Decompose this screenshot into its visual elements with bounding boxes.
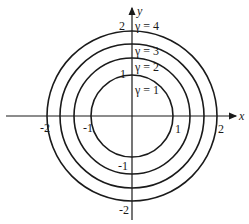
concentric-circles-diagram: x y -2 -1 1 2 2 1 -1 -2 γ = 4 γ = 3 γ = …	[0, 0, 249, 224]
label-gamma-1: γ = 1	[134, 83, 159, 97]
x-tick-1: 1	[175, 122, 181, 136]
y-tick-neg2: -2	[119, 203, 129, 217]
x-tick-2: 2	[218, 122, 224, 136]
x-tick-neg2: -2	[40, 121, 50, 135]
x-tick-neg1: -1	[83, 121, 93, 135]
label-gamma-4: γ = 4	[134, 19, 159, 33]
label-gamma-2: γ = 2	[134, 60, 159, 74]
y-axis-label: y	[136, 4, 143, 18]
label-gamma-3: γ = 3	[134, 44, 159, 58]
y-tick-2: 2	[119, 19, 125, 33]
y-tick-neg1: -1	[118, 159, 128, 173]
y-tick-1: 1	[120, 67, 126, 81]
x-axis-label: x	[238, 109, 245, 123]
